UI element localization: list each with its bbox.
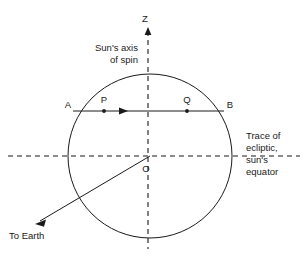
point-a-label: A [65, 99, 72, 110]
chord-direction-arrowhead-icon [119, 107, 128, 114]
ecliptic-trace-label-line1: Trace of [246, 130, 281, 141]
center-o-label: O [142, 163, 149, 174]
ecliptic-trace-label-line3: sun's [246, 154, 268, 165]
spin-axis-label-line1: Sun's axis [95, 42, 138, 53]
ecliptic-trace-label-line4: equator [246, 166, 278, 177]
point-b-label: B [227, 99, 233, 110]
z-axis-arrowhead-icon [145, 27, 152, 35]
point-p-marker [102, 109, 106, 113]
to-earth-ray-line [40, 156, 150, 221]
sun-geometry-diagram: Z Sun's axis of spin A P Q B O To Earth … [0, 0, 308, 258]
point-p-label: P [101, 94, 107, 105]
to-earth-label: To Earth [9, 230, 44, 241]
z-axis-label: Z [142, 13, 148, 24]
spin-axis-label-line2: of spin [110, 54, 138, 65]
ecliptic-trace-label-line2: ecliptic, [246, 142, 278, 153]
diagram-canvas: Z Sun's axis of spin A P Q B O To Earth … [0, 0, 308, 258]
point-q-marker [185, 109, 189, 113]
point-q-label: Q [183, 94, 190, 105]
